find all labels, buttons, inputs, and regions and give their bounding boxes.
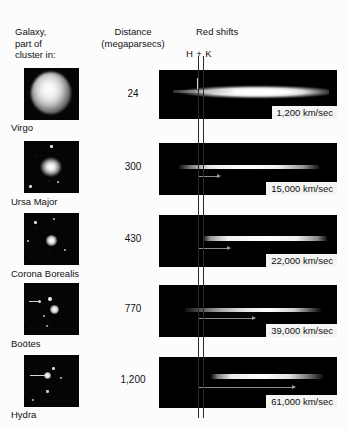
star-point <box>64 249 66 251</box>
star-point <box>46 390 49 393</box>
velocity-caption: 39,000 km/sec <box>266 324 337 337</box>
figure-canvas: Galaxy, part of cluster in: Distance (me… <box>0 0 348 430</box>
cluster-name-label: Ursa Major <box>11 196 57 207</box>
velocity-caption: 15,000 km/sec <box>266 182 337 195</box>
star-trail <box>30 375 45 376</box>
star-point <box>60 377 62 379</box>
galaxy-thumbnail-bootes <box>24 283 79 335</box>
star-point <box>32 399 34 401</box>
velocity-caption: 1,200 km/sec <box>272 106 338 119</box>
galaxy-thumbnail-corona-borealis <box>24 213 79 265</box>
spectrum-panel-bootes: 39,000 km/sec <box>159 285 337 337</box>
redshift-arrow <box>198 318 255 319</box>
star-point <box>46 325 48 327</box>
cluster-name-label: Corona Borealis <box>11 268 79 279</box>
hk-reference-line-h <box>198 56 199 418</box>
star-point <box>29 185 32 188</box>
velocity-caption: 61,000 km/sec <box>266 395 337 408</box>
galaxy-blob <box>41 158 61 176</box>
column-header-redshifts: Red shifts <box>196 26 316 38</box>
velocity-caption: 22,000 km/sec <box>266 254 337 267</box>
spectrum-streak <box>179 165 319 169</box>
cluster-name-label: Hydra <box>11 409 36 420</box>
galaxy-blob <box>46 235 57 246</box>
galaxy-thumbnail-ursa-major <box>24 141 79 193</box>
star-point <box>50 145 53 148</box>
column-header-galaxy: Galaxy, part of cluster in: <box>15 26 56 61</box>
spectrum-streak <box>185 308 321 312</box>
cluster-name-label: Boötes <box>11 338 41 349</box>
star-point <box>53 218 55 220</box>
spectrum-panel-hydra: 61,000 km/sec <box>159 357 337 408</box>
hk-reference-line-k <box>203 56 204 418</box>
cluster-name-label: Virgo <box>11 122 33 133</box>
spectrum-streak <box>211 374 323 379</box>
column-header-distance: Distance (megaparsecs) <box>88 26 178 49</box>
star-point <box>34 221 37 224</box>
redshift-arrow <box>198 387 295 388</box>
spectrum-panel-corona-borealis: 22,000 km/sec <box>159 215 337 267</box>
galaxy-thumbnail-virgo <box>24 68 79 120</box>
galaxy-blob <box>31 72 71 114</box>
star-trail <box>29 301 41 302</box>
star-point <box>27 240 29 242</box>
star-point <box>48 297 52 301</box>
spectrum-panel-ursa-major: 15,000 km/sec <box>159 143 337 195</box>
galaxy-blob <box>44 372 51 379</box>
star-point <box>43 315 45 317</box>
galaxy-thumbnail-hydra <box>24 355 79 407</box>
star-point <box>57 181 59 183</box>
star-point <box>52 367 55 370</box>
spectrum-streak <box>203 236 327 241</box>
redshift-arrow <box>198 176 220 177</box>
galaxy-blob <box>50 305 59 314</box>
spectrum-panel-virgo: 1,200 km/sec <box>159 70 337 119</box>
